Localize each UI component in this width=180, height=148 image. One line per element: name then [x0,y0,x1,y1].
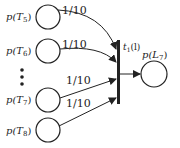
transition-bar [117,40,120,104]
svg-text:p(T7): p(T7) [6,94,31,107]
svg-text:p(L7): p(L7) [142,49,167,62]
svg-text:p(T5): p(T5) [6,11,31,24]
arc-weight: 1/10 [66,74,91,87]
place-circle [36,39,60,63]
place-t6: p(T6) 1/10 [6,38,116,63]
svg-text:p(T6): p(T6) [6,45,31,58]
place-circle [36,88,60,112]
petri-net-diagram: p(T5) 1/10 p(T6) 1/10 p(T7) 1/10 p(T8) 1… [0,0,180,148]
place-circle [36,118,60,142]
arc-weight: 1/10 [66,97,91,110]
transition-t1: t1(l) [117,40,140,104]
place-circle [141,61,167,87]
place-circle [36,5,60,29]
svg-text:t1(l): t1(l) [123,42,140,53]
svg-text:p(T8): p(T8) [6,125,31,138]
place-l7: p(L7) [141,49,167,87]
place-t5: p(T5) 1/10 [6,4,116,49]
ellipsis [20,68,24,86]
